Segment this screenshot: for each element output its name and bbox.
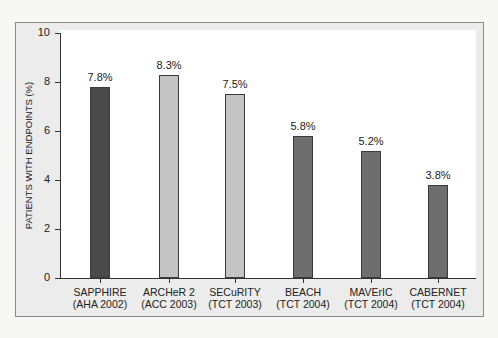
x-tick — [303, 279, 304, 283]
bar — [90, 87, 110, 278]
x-category-label: CABERNET(TCT 2004) — [403, 286, 473, 310]
y-tick-label: 6 — [30, 124, 50, 136]
x-category-line: BEACH — [268, 286, 338, 298]
y-tick-label: 4 — [30, 173, 50, 185]
bar — [428, 185, 448, 278]
bar-value-label: 7.5% — [210, 78, 260, 90]
x-category-line: (TCT 2003) — [200, 298, 270, 310]
x-category-label: BEACH(TCT 2004) — [268, 286, 338, 310]
y-tick — [55, 229, 60, 230]
bar-value-label: 5.2% — [346, 135, 396, 147]
x-category-line: MAVErIC — [336, 286, 406, 298]
bar — [361, 151, 381, 278]
bar-value-label: 7.8% — [75, 71, 125, 83]
x-category-label: MAVErIC(TCT 2004) — [336, 286, 406, 310]
x-category-line: (TCT 2004) — [403, 298, 473, 310]
bar — [293, 136, 313, 278]
x-category-line: (ACC 2003) — [134, 298, 204, 310]
y-axis — [60, 33, 61, 279]
y-axis-title: PATIENTS WITH ENDPOINTS (%) — [23, 81, 34, 231]
x-tick — [169, 279, 170, 283]
x-category-line: SAPPHIRE — [65, 286, 135, 298]
y-tick-label: 10 — [30, 26, 50, 38]
y-tick — [55, 82, 60, 83]
y-tick — [55, 131, 60, 132]
x-category-label: SAPPHIRE(AHA 2002) — [65, 286, 135, 310]
y-tick-label: 0 — [30, 271, 50, 283]
plot-area — [60, 30, 476, 278]
x-axis — [60, 278, 476, 279]
bar — [159, 75, 179, 278]
bar-value-label: 5.8% — [278, 120, 328, 132]
x-category-line: (TCT 2004) — [268, 298, 338, 310]
y-tick — [55, 180, 60, 181]
x-tick — [100, 279, 101, 283]
x-tick — [371, 279, 372, 283]
x-category-label: ARCHeR 2(ACC 2003) — [134, 286, 204, 310]
y-tick-label: 8 — [30, 75, 50, 87]
x-category-line: CABERNET — [403, 286, 473, 298]
x-category-line: (AHA 2002) — [65, 298, 135, 310]
bar-value-label: 3.8% — [413, 169, 463, 181]
x-category-label: SECuRITY(TCT 2003) — [200, 286, 270, 310]
bar — [225, 94, 245, 278]
y-tick — [55, 278, 60, 279]
x-tick — [235, 279, 236, 283]
x-category-line: SECuRITY — [200, 286, 270, 298]
x-tick — [438, 279, 439, 283]
bar-value-label: 8.3% — [144, 59, 194, 71]
x-category-line: (TCT 2004) — [336, 298, 406, 310]
y-tick — [55, 33, 60, 34]
y-tick-label: 2 — [30, 222, 50, 234]
x-category-line: ARCHeR 2 — [134, 286, 204, 298]
